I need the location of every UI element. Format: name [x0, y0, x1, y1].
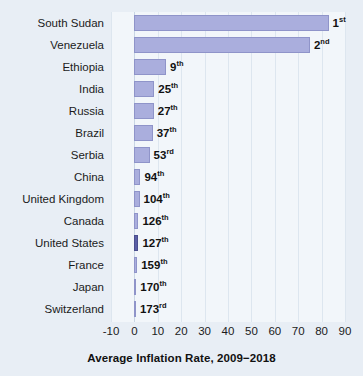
x-tick-label: 60: [268, 325, 281, 337]
bar: [134, 81, 154, 97]
category-label: Ethiopia: [0, 56, 104, 78]
bar-row: Japan170th: [0, 276, 363, 298]
category-label: India: [0, 78, 104, 100]
rank-label: 126th: [142, 210, 168, 232]
category-label: Russia: [0, 100, 104, 122]
x-tick-label: -10: [103, 325, 120, 337]
bar: [134, 169, 140, 185]
rank-label: 170th: [140, 276, 166, 298]
rank-suffix: th: [162, 213, 169, 222]
rank-suffix: rd: [159, 301, 167, 310]
category-label: United Kingdom: [0, 188, 104, 210]
rank-label: 104th: [144, 188, 170, 210]
rank-label: 53rd: [154, 144, 174, 166]
bar: [134, 235, 138, 251]
x-tick-label: 40: [222, 325, 235, 337]
bar-row: South Sudan1st: [0, 12, 363, 34]
bar: [134, 279, 136, 295]
category-label: France: [0, 254, 104, 276]
bar: [134, 15, 328, 31]
x-axis: -100102030405060708090: [111, 322, 345, 342]
bar: [134, 213, 138, 229]
x-tick-label: 50: [245, 325, 258, 337]
rank-label: 1st: [333, 12, 346, 34]
x-tick-label: 20: [175, 325, 188, 337]
x-tick-label: 70: [292, 325, 305, 337]
rank-label: 159th: [141, 254, 167, 276]
x-tick-label: 10: [151, 325, 164, 337]
x-tick-label: 0: [131, 325, 137, 337]
rank-suffix: th: [169, 125, 176, 134]
bar-row: China94th: [0, 166, 363, 188]
category-label: Brazil: [0, 122, 104, 144]
bar-row: Serbia53rd: [0, 144, 363, 166]
x-tick-label: 30: [198, 325, 211, 337]
bar-row: United States127th: [0, 232, 363, 254]
category-label: Serbia: [0, 144, 104, 166]
category-label: China: [0, 166, 104, 188]
rank-label: 2nd: [314, 34, 330, 56]
category-label: Venezuela: [0, 34, 104, 56]
rank-label: 127th: [142, 232, 168, 254]
chart-title: Average Inflation Rate, 2009−2018: [0, 352, 363, 364]
bar: [134, 147, 149, 163]
rank-label: 25th: [158, 78, 178, 100]
bar-row: France159th: [0, 254, 363, 276]
bar-row: United Kingdom104th: [0, 188, 363, 210]
rank-suffix: th: [176, 59, 183, 68]
rank-suffix: th: [157, 169, 164, 178]
bar-rows: South Sudan1stVenezuela2ndEthiopia9thInd…: [0, 12, 363, 322]
rank-label: 27th: [158, 100, 178, 122]
category-label: Switzerland: [0, 298, 104, 320]
bar: [134, 301, 136, 317]
rank-suffix: nd: [320, 37, 329, 46]
category-label: South Sudan: [0, 12, 104, 34]
bar-row: India25th: [0, 78, 363, 100]
category-label: Japan: [0, 276, 104, 298]
rank-label: 94th: [144, 166, 164, 188]
bar: [134, 59, 166, 75]
x-tick-label: 90: [339, 325, 352, 337]
bar-row: Switzerland173rd: [0, 298, 363, 320]
rank-suffix: th: [162, 235, 169, 244]
bar-row: Venezuela2nd: [0, 34, 363, 56]
bar: [134, 191, 139, 207]
rank-suffix: th: [160, 257, 167, 266]
rank-label: 9th: [170, 56, 184, 78]
rank-label: 37th: [157, 122, 177, 144]
x-tick-label: 80: [315, 325, 328, 337]
category-label: United States: [0, 232, 104, 254]
bar: [134, 37, 310, 53]
rank-suffix: th: [171, 81, 178, 90]
rank-suffix: st: [339, 15, 346, 24]
rank-suffix: th: [171, 103, 178, 112]
rank-suffix: th: [159, 279, 166, 288]
rank-label: 173rd: [140, 298, 167, 320]
bar-row: Canada126th: [0, 210, 363, 232]
bar: [134, 257, 137, 273]
category-label: Canada: [0, 210, 104, 232]
bar: [134, 125, 152, 141]
bar: [134, 103, 153, 119]
rank-suffix: th: [163, 191, 170, 200]
inflation-rate-bar-chart: South Sudan1stVenezuela2ndEthiopia9thInd…: [0, 0, 363, 376]
bar-row: Russia27th: [0, 100, 363, 122]
rank-suffix: rd: [166, 147, 174, 156]
bar-row: Ethiopia9th: [0, 56, 363, 78]
bar-row: Brazil37th: [0, 122, 363, 144]
